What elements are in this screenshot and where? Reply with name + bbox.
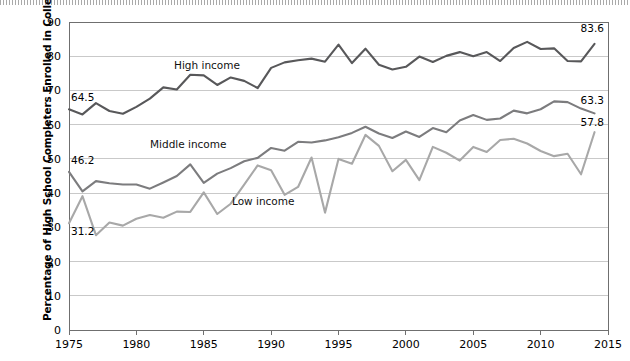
series-name-label: Low income [232,195,294,207]
series-line-middle-income [69,101,595,191]
start-value-label: 64.5 [71,91,94,103]
series-line-high-income [69,42,595,115]
y-tick-label: 50 [47,153,61,166]
y-tick-label: 60 [47,119,61,132]
y-tick-labels-group: 0102030405060708090 [47,16,61,337]
x-tick-label: 2005 [459,338,487,351]
y-tick-label: 90 [47,16,61,29]
y-tick-label: 70 [47,84,61,97]
x-tick-label: 2000 [392,338,420,351]
x-tick-label: 1990 [257,338,285,351]
y-tick-label: 10 [47,290,61,303]
annotations-group: 64.546.231.283.663.357.8High incomeMiddl… [71,22,604,237]
series-name-label: High income [174,59,240,71]
series-name-label: Middle income [150,138,226,150]
x-tick-label: 1985 [190,338,218,351]
x-tick-labels-group: 197519801985199019952000200520102015 [55,330,622,351]
plot-frame [69,22,608,330]
chart-figure: Percentage of High School Completers Enr… [0,0,630,361]
start-value-label: 31.2 [71,225,94,237]
data-series-group [69,42,595,235]
end-value-label: 57.8 [581,116,604,128]
y-tick-label: 30 [47,221,61,234]
y-tick-label: 40 [47,187,61,200]
y-tick-label: 80 [47,50,61,63]
end-value-label: 63.3 [581,94,604,106]
y-tick-label: 20 [47,256,61,269]
x-tick-label: 1995 [325,338,353,351]
line-chart-plot: 0102030405060708090 19751980198519901995… [0,0,630,361]
y-tick-label: 0 [54,324,61,337]
start-value-label: 46.2 [71,154,94,166]
x-tick-label: 2010 [527,338,555,351]
x-tick-label: 1980 [122,338,150,351]
series-line-low-income [69,132,595,235]
end-value-label: 83.6 [581,22,605,34]
x-tick-label: 2015 [594,338,622,351]
x-tick-label: 1975 [55,338,83,351]
